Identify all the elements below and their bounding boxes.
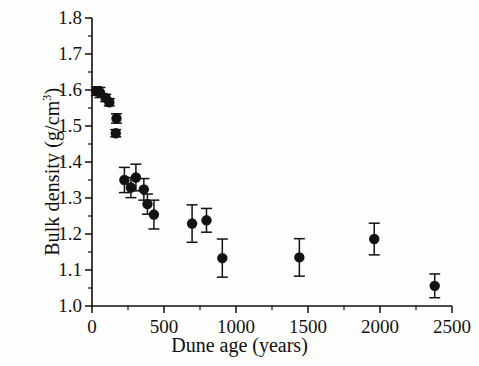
data-point-marker [201, 215, 211, 225]
data-point-marker [111, 113, 121, 123]
data-point-marker [369, 234, 379, 244]
y-tick-label: 1.4 [14, 151, 82, 173]
data-point-marker [187, 218, 197, 228]
y-tick-label: 1.1 [14, 259, 82, 281]
y-axis-ticks [85, 18, 92, 306]
figure-scatter-bulk-density: Bulk density (g/cm3) Dune age (years) 05… [0, 0, 479, 366]
y-tick-label: 1.5 [14, 115, 82, 137]
data-point-marker [126, 182, 136, 192]
x-tick-label: 1500 [289, 316, 327, 338]
y-tick-label: 1.3 [14, 187, 82, 209]
y-tick-label: 1.6 [14, 79, 82, 101]
data-point-marker [139, 184, 149, 194]
data-point-marker [217, 253, 227, 263]
data-point-marker [104, 97, 114, 107]
x-axis-ticks [92, 306, 452, 313]
x-tick-label: 1000 [217, 316, 255, 338]
data-point-marker [142, 199, 152, 209]
y-tick-label: 1.2 [14, 223, 82, 245]
x-tick-label: 2000 [361, 316, 399, 338]
x-tick-label: 0 [87, 316, 97, 338]
data-point-marker [149, 209, 159, 219]
x-tick-label: 500 [150, 316, 179, 338]
data-markers-layer [91, 86, 440, 291]
data-point-marker [111, 128, 121, 138]
data-point-marker [430, 281, 440, 291]
y-tick-label: 1.0 [14, 295, 82, 317]
x-tick-label: 2500 [433, 316, 471, 338]
data-point-marker [131, 172, 141, 182]
y-tick-label: 1.7 [14, 43, 82, 65]
axis-lines [92, 18, 452, 306]
data-point-marker [294, 252, 304, 262]
y-tick-label: 1.8 [14, 7, 82, 29]
